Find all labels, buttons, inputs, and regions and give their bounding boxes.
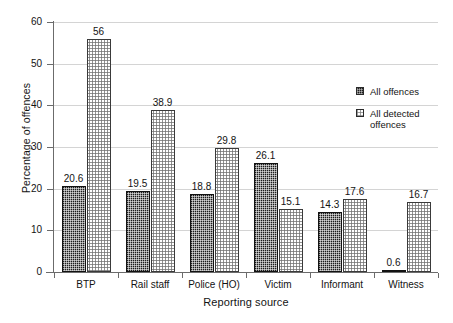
- x-axis-tick-label: Police (HO): [182, 279, 246, 290]
- x-axis-tick-label: Victim: [246, 279, 310, 290]
- bar-value-label: 16.7: [397, 190, 441, 200]
- gridline: [54, 147, 438, 148]
- bar: [87, 39, 111, 272]
- bar: [343, 199, 367, 272]
- bar-value-label: 38.9: [141, 98, 185, 108]
- legend-item: All detected offences: [356, 108, 450, 130]
- y-axis-tick-label: 40: [12, 100, 42, 110]
- y-axis-tick: [47, 105, 54, 106]
- y-axis-tick-label: 0: [12, 267, 42, 277]
- bar-value-label: 15.1: [269, 197, 313, 207]
- legend-label: All offences: [370, 86, 419, 97]
- x-axis-tick-label: BTP: [54, 279, 118, 290]
- bar-value-label: 26.1: [244, 151, 288, 161]
- x-axis-tick: [310, 273, 311, 278]
- bar-chart: Percentage of offences 20.65619.538.918.…: [0, 0, 453, 323]
- bar: [407, 202, 431, 272]
- bar: [382, 270, 406, 273]
- y-axis-tick-label: 20: [12, 184, 42, 194]
- y-axis-tick: [47, 272, 54, 273]
- gridline: [54, 230, 438, 231]
- y-axis-tick: [47, 147, 54, 148]
- x-axis-tick: [438, 273, 439, 278]
- bar: [151, 110, 175, 272]
- bar: [62, 186, 86, 272]
- y-axis-tick-label: 10: [12, 225, 42, 235]
- legend-item: All offences: [356, 86, 450, 97]
- x-axis-tick-label: Informant: [310, 279, 374, 290]
- y-axis-tick-label: 60: [12, 17, 42, 27]
- gridline: [54, 22, 438, 23]
- legend-swatch: [356, 109, 364, 117]
- gridline: [54, 189, 438, 190]
- y-axis-tick-label: 50: [12, 59, 42, 69]
- y-axis-tick: [47, 64, 54, 65]
- y-axis-tick: [47, 22, 54, 23]
- x-axis-tick: [54, 273, 55, 278]
- bar-value-label: 56: [77, 27, 121, 37]
- bar: [318, 212, 342, 272]
- chart-legend: All offencesAll detected offences: [356, 86, 450, 141]
- plot-area: 20.65619.538.918.829.826.115.114.317.60.…: [54, 22, 438, 272]
- bar-value-label: 29.8: [205, 136, 249, 146]
- bar: [279, 209, 303, 272]
- x-axis-tick: [118, 273, 119, 278]
- x-axis-title: Reporting source: [54, 296, 438, 308]
- legend-swatch: [356, 87, 364, 95]
- x-axis-tick-label: Rail staff: [118, 279, 182, 290]
- x-axis-tick: [374, 273, 375, 278]
- bar-value-label: 17.6: [333, 187, 377, 197]
- y-axis-tick: [47, 189, 54, 190]
- x-axis-tick: [182, 273, 183, 278]
- gridline: [54, 64, 438, 65]
- y-axis-tick: [47, 230, 54, 231]
- bar: [190, 194, 214, 272]
- x-axis-tick-label: Witness: [374, 279, 438, 290]
- y-axis-tick-label: 30: [12, 142, 42, 152]
- x-axis-line: [46, 272, 438, 273]
- bar: [215, 148, 239, 272]
- legend-label: All detected offences: [370, 108, 420, 130]
- bar: [254, 163, 278, 272]
- x-axis-tick: [246, 273, 247, 278]
- bar: [126, 191, 150, 272]
